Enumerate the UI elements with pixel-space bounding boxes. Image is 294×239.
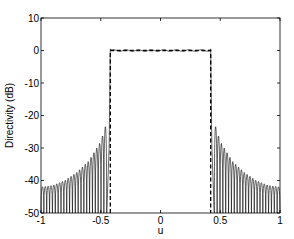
y-tick-label: -30 — [25, 143, 40, 154]
directivity-chart: -1-0.500.51 100-10-20-30-40-50 u Directi… — [0, 0, 294, 239]
synthesized-pattern-line — [41, 49, 280, 213]
y-tick-label: 0 — [33, 45, 39, 56]
x-tick-label: -0.5 — [92, 215, 110, 226]
desired-pattern-line — [110, 51, 210, 214]
axes-frame — [41, 18, 280, 213]
y-tick-label: -20 — [25, 110, 40, 121]
y-tick-label: -40 — [25, 175, 40, 186]
y-axis-ticks: 100-10-20-30-40-50 — [25, 13, 280, 219]
x-tick-label: 0.5 — [213, 215, 227, 226]
y-tick-label: -50 — [25, 208, 40, 219]
x-tick-label: 1 — [277, 215, 283, 226]
y-tick-label: 10 — [28, 13, 40, 24]
y-tick-label: -10 — [25, 78, 40, 89]
y-axis-label: Directivity (dB) — [4, 83, 15, 148]
x-axis-label: u — [158, 225, 164, 236]
